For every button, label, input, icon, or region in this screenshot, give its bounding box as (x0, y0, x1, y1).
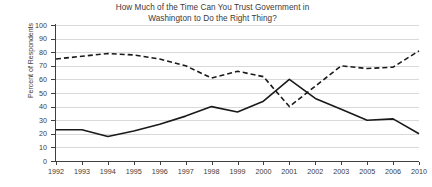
y-tick-mark (51, 134, 55, 135)
x-tick-mark (419, 162, 420, 165)
y-tick-label: 20 (7, 129, 47, 138)
y-tick-mark (51, 107, 55, 108)
y-tick-label: 40 (7, 102, 47, 111)
x-tick-mark (367, 162, 368, 165)
x-tick-mark (186, 162, 187, 165)
x-tick-mark (56, 162, 57, 165)
y-tick-mark (51, 39, 55, 40)
chart-title: How Much of the Time Can You Trust Gover… (0, 3, 425, 24)
y-tick-mark (51, 25, 55, 26)
x-tick-mark (82, 162, 83, 165)
x-tick-mark (160, 162, 161, 165)
y-tick-mark (51, 52, 55, 53)
y-tick-label: 60 (7, 75, 47, 84)
series-layer (56, 25, 419, 161)
x-tick-mark (263, 162, 264, 165)
y-tick-mark (51, 79, 55, 80)
y-tick-label: 70 (7, 61, 47, 70)
y-tick-label: 100 (7, 21, 47, 30)
x-tick-mark (238, 162, 239, 165)
chart-title-line-2: Washington to Do the Right Thing? (0, 14, 425, 25)
x-tick-mark (212, 162, 213, 165)
y-tick-label: 30 (7, 116, 47, 125)
x-tick-mark (393, 162, 394, 165)
y-tick-label: 50 (7, 89, 47, 98)
y-tick-mark (51, 120, 55, 121)
x-tick-mark (134, 162, 135, 165)
y-tick-mark (51, 161, 55, 162)
y-tick-mark (51, 93, 55, 94)
y-tick-label: 0 (7, 157, 47, 166)
chart-title-line-1: How Much of the Time Can You Trust Gover… (0, 3, 425, 14)
series-line-solid (56, 79, 419, 136)
x-tick-mark (315, 162, 316, 165)
x-tick-label: 2010 (402, 167, 432, 176)
y-tick-label: 90 (7, 34, 47, 43)
y-tick-mark (51, 66, 55, 67)
y-tick-label: 10 (7, 143, 47, 152)
x-tick-mark (341, 162, 342, 165)
series-line-dashed (56, 51, 419, 107)
x-tick-mark (289, 162, 290, 165)
y-tick-label: 80 (7, 48, 47, 57)
y-tick-mark (51, 147, 55, 148)
x-tick-mark (108, 162, 109, 165)
